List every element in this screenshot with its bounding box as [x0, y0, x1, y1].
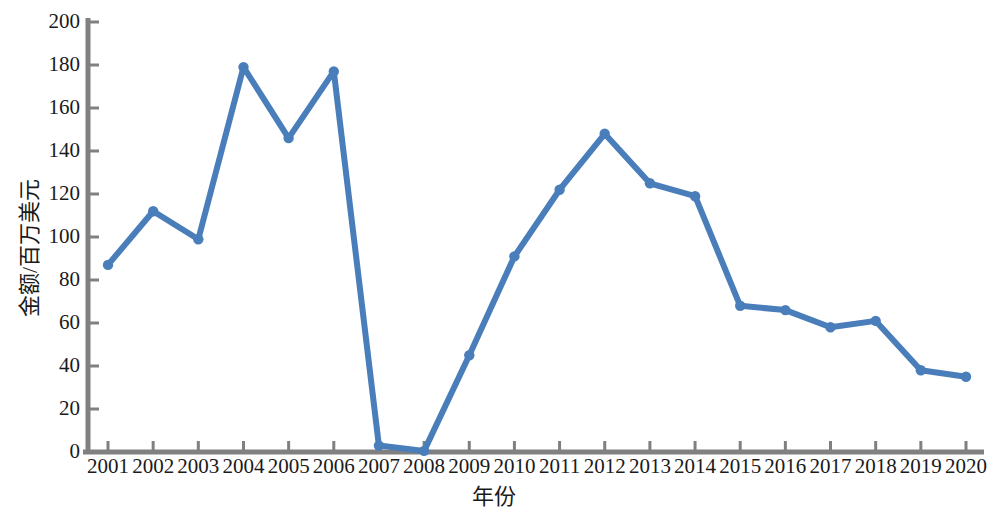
y-axis-tick-label: 120	[49, 183, 81, 204]
data-point-marker	[193, 234, 203, 244]
data-point-marker	[283, 133, 293, 143]
data-point-marker	[509, 251, 519, 261]
data-point-marker	[825, 322, 835, 332]
data-point-marker	[329, 66, 339, 76]
chart-axes	[83, 18, 984, 452]
data-point-markers	[103, 62, 971, 456]
data-point-marker	[103, 260, 113, 270]
data-series-line	[108, 67, 966, 451]
y-axis-title: 金额/百万美元	[11, 163, 43, 333]
y-axis-tick-label: 180	[49, 54, 81, 75]
data-point-marker	[645, 178, 655, 188]
data-point-marker	[961, 372, 971, 382]
x-axis-tick-label: 2020	[936, 456, 988, 477]
y-axis-tick-label: 100	[49, 226, 81, 247]
y-axis-tick-label: 140	[49, 140, 81, 161]
y-axis-tick-label: 20	[59, 398, 80, 419]
data-point-marker	[554, 185, 564, 195]
data-point-marker	[600, 129, 610, 139]
y-axis-tick-label: 40	[59, 355, 80, 376]
data-point-marker	[148, 206, 158, 216]
data-point-marker	[735, 301, 745, 311]
x-axis-title: 年份	[0, 478, 988, 510]
data-point-marker	[238, 62, 248, 72]
data-point-marker	[871, 316, 881, 326]
y-axis-tick-label: 60	[59, 312, 80, 333]
data-point-marker	[690, 191, 700, 201]
y-axis-tick-label: 80	[59, 269, 80, 290]
y-axis-tick-label: 200	[49, 11, 81, 32]
y-axis-tick-label: 160	[49, 97, 81, 118]
data-point-marker	[916, 365, 926, 375]
data-point-marker	[464, 350, 474, 360]
data-point-marker	[780, 305, 790, 315]
data-point-marker	[374, 440, 384, 450]
